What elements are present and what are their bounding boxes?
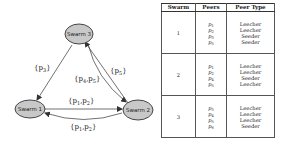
cell-swarm: 1 <box>162 12 196 54</box>
edge-label-swarm2-swarm1: {p1,p2} <box>70 123 97 134</box>
edge-label-swarm1-swarm2: {p1,p2} <box>68 97 95 108</box>
header-swarm: Swarm <box>162 4 196 12</box>
edge-label-swarm2-swarm3: {p5} <box>110 67 127 78</box>
peer-type: Seeder <box>230 39 271 45</box>
edge-label-swarm3-swarm1: {p3} <box>34 64 51 75</box>
table-row: 2 p1 p2 p4 p5 Leecher Leecher Seeder Lee… <box>162 54 275 96</box>
peer: p6 <box>199 123 223 129</box>
table-header-row: Swarm Peers Peer Type <box>162 4 275 12</box>
node-label-swarm2: Swarm 2 <box>118 106 158 114</box>
cell-peers: p1 p2 p3 p5 <box>196 12 227 54</box>
node-label-swarm1: Swarm 1 <box>10 105 50 113</box>
peer: p5 <box>199 39 223 45</box>
node-label-swarm3: Swarm 3 <box>59 30 99 38</box>
peer-type: Seeder <box>230 123 271 129</box>
peer: p5 <box>199 81 223 87</box>
edge-label-swarm3-swarm2: {p4,p5} <box>74 75 101 86</box>
header-peer-type: Peer Type <box>227 4 275 12</box>
table-row: 1 p1 p2 p3 p5 Leecher Leecher Seeder See… <box>162 12 275 54</box>
cell-swarm: 3 <box>162 96 196 138</box>
edge-swarm2-to-swarm1 <box>45 113 122 120</box>
cell-swarm: 2 <box>162 54 196 96</box>
cell-peers: p1 p2 p4 p5 <box>196 54 227 96</box>
peer-type: Leecher <box>230 81 271 87</box>
cell-peers: p3 p4 p5 p6 <box>196 96 227 138</box>
swarm-peer-table: Swarm Peers Peer Type 1 p1 p2 p3 p5 Leec… <box>161 3 275 138</box>
swarm-diagram: Swarm 3 Swarm 1 Swarm 2 {p3} {p5} {p4,p5… <box>0 0 160 150</box>
cell-peer-types: Leecher Leecher Leecher Seeder <box>227 96 275 138</box>
header-peers: Peers <box>196 4 227 12</box>
table-row: 3 p3 p4 p5 p6 Leecher Leecher Leecher Se… <box>162 96 275 138</box>
cell-peer-types: Leecher Leecher Seeder Seeder <box>227 12 275 54</box>
cell-peer-types: Leecher Leecher Seeder Leecher <box>227 54 275 96</box>
